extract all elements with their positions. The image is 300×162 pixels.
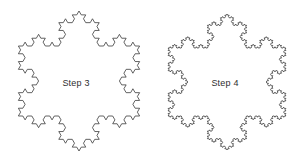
koch-snowflake-panel: Step 3 Step 4: [0, 0, 300, 162]
figure-caption-step4: Step 4: [150, 78, 300, 89]
figure-caption-step3: Step 3: [0, 78, 152, 89]
